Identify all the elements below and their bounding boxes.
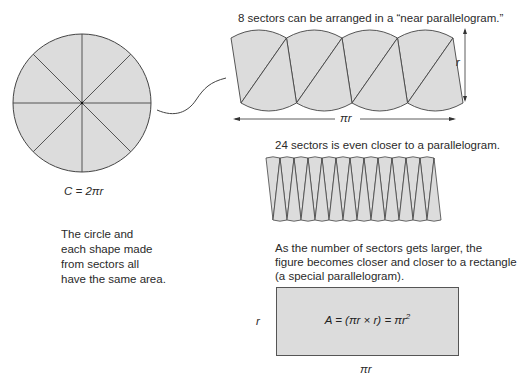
rectangle-caption-line: As the number of sectors gets larger, th… [275,241,482,256]
rectangle-height-label: r [256,314,260,329]
arrowhead-right-icon [449,117,456,121]
eight-sector-height-label: r [456,55,460,70]
eight-sector-parallelogram [231,30,463,111]
circle-center [81,102,83,104]
area-formula-main: A = (πr × r) = πr [325,314,406,326]
area-note-line: from sectors all [61,257,139,272]
eight-sector-caption: 8 sectors can be arranged in a “near par… [238,11,503,26]
rectangle-caption-line: (a special parallelogram). [275,269,404,284]
area-note-line: have the same area. [61,272,166,287]
arrowhead-left-icon [233,117,240,121]
area-formula-exponent: 2 [406,312,410,321]
rectangle-caption-line: figure becomes closer and closer to a re… [275,255,517,270]
eight-sector-width-label: πr [340,111,352,126]
area-formula: A = (πr × r) = πr2 [277,312,458,326]
rectangle-width-label: πr [360,362,372,377]
area-note-line: The circle and [61,227,133,242]
arrowhead-up-icon [463,28,467,34]
twentyfour-sector-parallelogram [266,157,441,221]
limit-rectangle: A = (πr × r) = πr2 [276,287,459,356]
area-note-line: each shape made [61,242,152,257]
arrowhead-down-icon [463,96,467,102]
twentyfour-sector-caption: 24 sectors is even closer to a parallelo… [275,138,500,153]
curved-arrow-connector [157,78,226,114]
circumference-formula: C = 2πr [64,184,103,199]
sector-circle [13,34,151,172]
